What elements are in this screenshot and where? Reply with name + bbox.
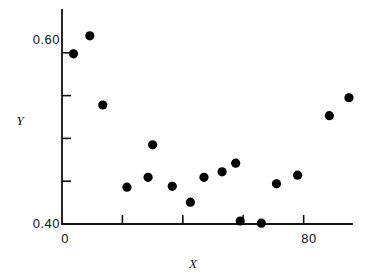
data-point xyxy=(236,216,245,225)
x-axis-tick-marks xyxy=(122,215,303,224)
data-point xyxy=(186,198,195,207)
data-point xyxy=(85,31,94,40)
y-axis-tick-label-bottom: 0.40 xyxy=(33,216,60,231)
data-point xyxy=(231,159,240,168)
axes-group xyxy=(62,10,352,224)
data-point xyxy=(218,167,227,176)
data-point xyxy=(272,179,281,188)
data-point xyxy=(257,219,266,228)
axis-lines xyxy=(62,10,352,224)
data-point xyxy=(199,173,208,182)
y-axis-tick-label-top: 0.60 xyxy=(33,32,60,47)
data-point xyxy=(344,93,353,102)
data-point xyxy=(69,49,78,58)
scatter-plot-figure: 0.60 0.40 0 80 X Y xyxy=(0,0,368,278)
x-axis-tick-label-80: 80 xyxy=(301,231,316,246)
data-point xyxy=(148,140,157,149)
y-axis-title: Y xyxy=(16,113,25,128)
data-point xyxy=(98,100,107,109)
y-axis-tick-marks xyxy=(62,53,71,181)
x-axis-title: X xyxy=(188,256,198,271)
data-points-group xyxy=(69,31,354,227)
data-point xyxy=(122,183,131,192)
data-point xyxy=(168,182,177,191)
data-point xyxy=(143,173,152,182)
data-point xyxy=(293,171,302,180)
plot-canvas: 0.60 0.40 0 80 X Y xyxy=(0,0,368,278)
x-axis-tick-label-origin: 0 xyxy=(61,231,69,246)
data-point xyxy=(325,111,334,120)
